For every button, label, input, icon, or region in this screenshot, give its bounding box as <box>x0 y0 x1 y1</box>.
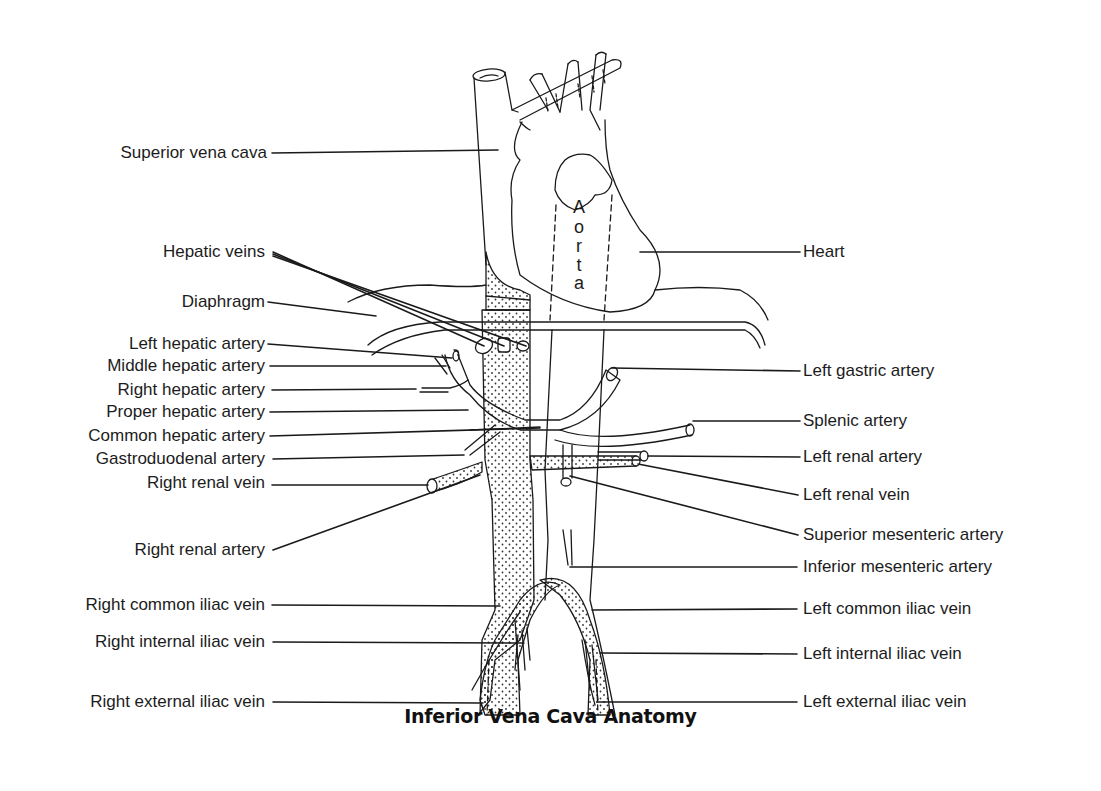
label-left-renal-artery: Left renal artery <box>803 447 922 467</box>
label-hepatic-veins: Hepatic veins <box>163 242 265 262</box>
figure-title: Inferior Vena Cava Anatomy <box>0 705 1101 727</box>
left-renal-vein <box>530 456 636 470</box>
left-iliac-vein <box>540 578 610 715</box>
label-gastroduodenal-artery: Gastroduodenal artery <box>96 449 265 469</box>
label-splenic-artery: Splenic artery <box>803 411 907 431</box>
label-superior-vena-cava: Superior vena cava <box>121 143 267 163</box>
label-left-hepatic-artery: Left hepatic artery <box>129 334 265 354</box>
label-left-internal-iliac-vein: Left internal iliac vein <box>803 644 962 664</box>
label-inferior-mesenteric-artery: Inferior mesenteric artery <box>803 557 992 577</box>
label-left-common-iliac-vein: Left common iliac vein <box>803 599 971 619</box>
abdominal-aorta-walls <box>545 330 615 715</box>
label-heart: Heart <box>803 242 845 262</box>
label-left-renal-vein: Left renal vein <box>803 485 910 505</box>
diaphragm-shape <box>348 285 768 355</box>
label-common-hepatic-artery: Common hepatic artery <box>88 426 265 446</box>
label-diaphragm: Diaphragm <box>182 292 265 312</box>
label-right-hepatic-artery: Right hepatic artery <box>118 380 265 400</box>
aortic-arch-branches <box>512 52 621 130</box>
inferior-mesenteric-artery <box>563 530 572 565</box>
label-superior-mesenteric-artery: Superior mesenteric artery <box>803 525 1003 545</box>
label-right-internal-iliac-vein: Right internal iliac vein <box>95 632 265 652</box>
label-middle-hepatic-artery: Middle hepatic artery <box>107 356 265 376</box>
ivc-upper <box>486 252 530 310</box>
superior-vena-cava-shape <box>473 68 518 265</box>
aorta-label-letter: a <box>569 272 589 294</box>
label-right-common-iliac-vein: Right common iliac vein <box>85 595 265 615</box>
label-left-gastric-artery: Left gastric artery <box>803 361 934 381</box>
right-iliac-vein <box>480 582 560 715</box>
aorta-label-letter: A <box>569 196 589 218</box>
celiac-trunk-branches <box>420 350 694 455</box>
label-right-renal-vein: Right renal vein <box>147 473 265 493</box>
label-proper-hepatic-artery: Proper hepatic artery <box>106 402 265 422</box>
label-right-renal-artery: Right renal artery <box>135 540 265 560</box>
